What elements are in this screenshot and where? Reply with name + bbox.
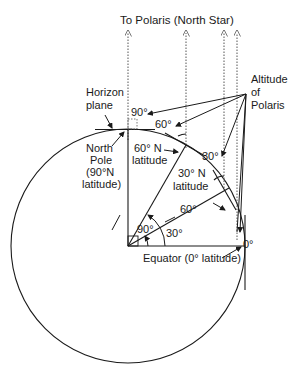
altitude-label-1: Altitude (251, 73, 288, 85)
pole-right-angle (128, 119, 137, 129)
altitude-label-2: of (251, 86, 261, 98)
equator-label: Equator (0° latitude) (143, 252, 241, 264)
lat30-label-2: latitude (173, 180, 208, 192)
north-pole-label-3: (90°N (86, 166, 114, 178)
center-30-label: 30° (166, 227, 183, 239)
horizon-label-1: Horizon (86, 86, 124, 98)
lat30-label-1: 30° N (178, 167, 206, 179)
north-pole-label-1: North (86, 142, 113, 154)
horizon-label-2: plane (86, 99, 113, 111)
alt-30-label: 30° (202, 150, 219, 162)
center-60-label: 60° (180, 203, 197, 215)
north-pole-label-4: latitude) (82, 178, 121, 190)
polaris-altitude-diagram: To Polaris (North Star) Altitude of Pola… (0, 0, 307, 380)
lat60-label-1: 60° N (134, 142, 162, 154)
alt-60-label: 60° (155, 118, 172, 130)
title-label: To Polaris (North Star) (120, 14, 234, 26)
lat60-label-2: latitude (132, 154, 167, 166)
altitude-label-3: Polaris (251, 99, 285, 111)
center-90-label: 90° (137, 223, 154, 235)
alt-0-label: 0° (243, 238, 254, 250)
north-pole-label-2: Pole (90, 154, 112, 166)
alt-90-label: 90° (131, 106, 148, 118)
